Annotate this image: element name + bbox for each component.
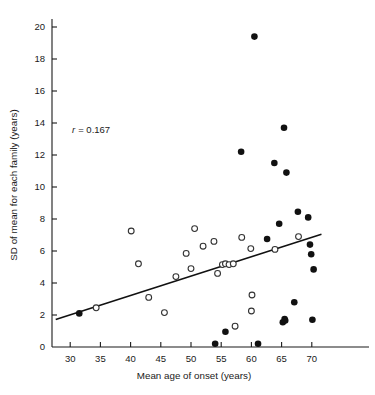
data-point-open <box>162 310 168 316</box>
data-point-filled <box>212 341 219 348</box>
data-point-filled <box>222 329 229 336</box>
x-tick-label: 40 <box>125 353 136 364</box>
data-point-filled <box>76 310 83 317</box>
y-tick-label: 12 <box>34 149 45 160</box>
data-point-filled <box>291 299 298 306</box>
data-point-open <box>173 274 179 280</box>
y-tick-label: 4 <box>40 277 45 288</box>
x-tick-label: 65 <box>276 353 287 364</box>
data-point-open <box>215 271 221 277</box>
y-axis-title: SD of mean for each family (years) <box>8 109 19 260</box>
y-tick-label: 16 <box>34 85 45 96</box>
data-point-open <box>239 235 245 241</box>
data-point-filled <box>283 169 290 176</box>
correlation-symbol: r <box>72 124 76 135</box>
x-tick-label: 30 <box>65 353 76 364</box>
x-tick-label: 55 <box>216 353 227 364</box>
x-tick-label: 70 <box>307 353 318 364</box>
x-tick-label: 50 <box>186 353 197 364</box>
y-tick-label: 20 <box>34 21 45 32</box>
data-point-filled <box>308 251 315 258</box>
correlation-value: = 0.167 <box>78 124 110 135</box>
data-point-open <box>192 226 198 232</box>
data-points-group <box>76 33 317 347</box>
axes-group: 02468101214161820303540455055606570 <box>34 19 369 364</box>
y-tick-label: 8 <box>40 213 45 224</box>
data-point-open <box>136 261 142 267</box>
data-point-filled <box>295 209 302 216</box>
data-point-open <box>146 295 152 301</box>
data-point-filled <box>305 214 312 221</box>
data-point-open <box>249 292 255 298</box>
data-point-filled <box>282 317 289 324</box>
data-point-open <box>211 239 217 245</box>
x-tick-label: 45 <box>156 353 167 364</box>
y-tick-label: 2 <box>40 309 45 320</box>
x-tick-label: 60 <box>246 353 257 364</box>
data-point-open <box>272 247 278 253</box>
data-point-filled <box>307 241 314 248</box>
data-point-open <box>230 261 236 267</box>
x-tick-label: 35 <box>95 353 106 364</box>
data-point-filled <box>281 125 288 132</box>
data-point-open <box>188 266 194 272</box>
data-point-filled <box>310 266 317 273</box>
x-axis-title: Mean age of onset (years) <box>137 370 251 381</box>
data-point-filled <box>264 236 271 243</box>
data-point-filled <box>238 149 245 156</box>
data-point-open <box>249 308 255 314</box>
data-point-open <box>93 305 99 311</box>
data-point-filled <box>309 317 316 324</box>
data-point-open <box>183 251 189 257</box>
data-point-open <box>232 323 238 329</box>
data-point-open <box>296 234 302 240</box>
data-point-filled <box>251 33 258 40</box>
scatter-plot-figure: 02468101214161820303540455055606570 r= 0… <box>0 0 375 395</box>
y-tick-label: 14 <box>34 117 45 128</box>
y-tick-label: 0 <box>40 341 45 352</box>
data-point-filled <box>255 341 262 348</box>
data-point-open <box>248 246 254 252</box>
data-point-open <box>128 228 134 234</box>
data-point-filled <box>271 160 278 167</box>
correlation-annotation: r= 0.167 <box>72 124 110 135</box>
y-tick-label: 18 <box>34 53 45 64</box>
scatter-plot-canvas: 02468101214161820303540455055606570 r= 0… <box>0 0 375 395</box>
data-point-open <box>200 243 206 249</box>
data-point-filled <box>276 221 283 228</box>
y-tick-label: 6 <box>40 245 45 256</box>
y-tick-label: 10 <box>34 181 45 192</box>
